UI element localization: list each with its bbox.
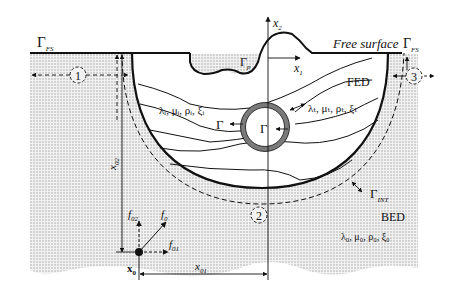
region-2-label: 2 (256, 209, 262, 223)
x2-axis-label: x2 (272, 16, 282, 32)
gamma-inner-left-label: Γ (216, 117, 224, 132)
gamma-fs-left-label: ΓFS (37, 34, 54, 53)
free-surface-label: Free surface (332, 36, 399, 51)
region-3-label: 3 (411, 70, 417, 84)
layer-params-label: λᵢ, μᵢ, ρᵢ, ξᵢ (159, 104, 205, 117)
gamma-inner-center-label: Γ (260, 121, 268, 136)
gamma-fs-right-label: ΓFS (403, 36, 419, 54)
inclusion-params-label: λₜ, μₜ, ρₜ, ξₜ (308, 102, 357, 115)
region-1-label: 1 (75, 69, 81, 83)
bed-params-label: λ₀, μ₀, ρ₀, ξ₀ (341, 231, 390, 243)
fed-bed-diagram: 1 2 3 ΓFS Free surface ΓFS x2 x1 Γp FED … (0, 0, 456, 308)
fed-label: FED (347, 75, 370, 89)
bed-label: BED (381, 210, 405, 224)
